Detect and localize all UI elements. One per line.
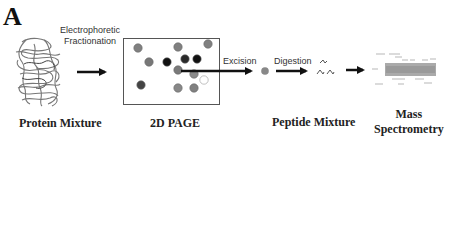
- mass-spectrometry-label: Mass Spectrometry: [374, 107, 444, 137]
- ms-label-line2: Spectrometry: [374, 122, 444, 137]
- ms-label-line1: Mass: [374, 107, 444, 122]
